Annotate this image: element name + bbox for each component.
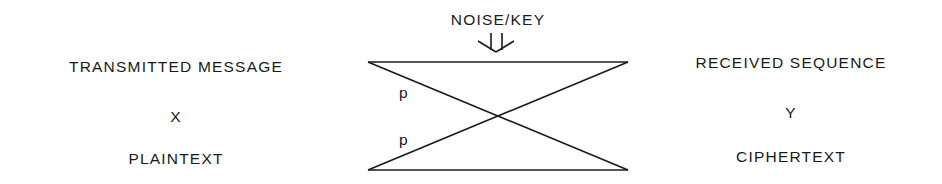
ciphertext-label: CIPHERTEXT [736,148,846,166]
upper-probability-label: p [399,84,409,102]
transmitted-message-label: TRANSMITTED MESSAGE [69,58,283,76]
received-sequence-label: RECEIVED SEQUENCE [696,54,887,72]
y-variable-label: Y [785,104,797,122]
x-variable-label: X [170,108,182,126]
noise-key-label: NOISE/KEY [451,11,545,29]
double-down-arrow-icon [478,33,514,52]
lower-probability-label: p [399,131,409,149]
plaintext-label: PLAINTEXT [128,150,223,168]
